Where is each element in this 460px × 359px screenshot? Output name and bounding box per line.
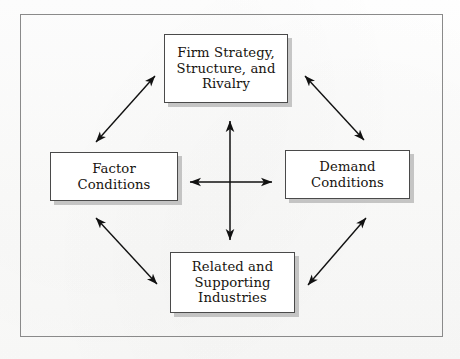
node-factor-conditions-label: Factor Conditions (72, 161, 157, 192)
node-demand-conditions-label: Demand Conditions (305, 159, 390, 190)
node-demand-conditions: Demand Conditions (285, 150, 410, 199)
node-related-supporting: Related and Supporting Industries (170, 252, 295, 313)
connector-diagonal-bottom-left (96, 218, 157, 284)
node-firm-strategy-label: Firm Strategy, Structure, and Rivalry (171, 45, 282, 91)
node-factor-conditions: Factor Conditions (50, 152, 178, 201)
connector-diagonal-bottom-right (308, 218, 366, 285)
node-related-supporting-label: Related and Supporting Industries (186, 259, 279, 305)
connector-diagonal-top-left (96, 76, 155, 142)
diagram-canvas: Firm Strategy, Structure, and Rivalry Fa… (0, 0, 460, 359)
connector-diagonal-top-right (305, 76, 364, 140)
node-firm-strategy: Firm Strategy, Structure, and Rivalry (164, 34, 288, 103)
